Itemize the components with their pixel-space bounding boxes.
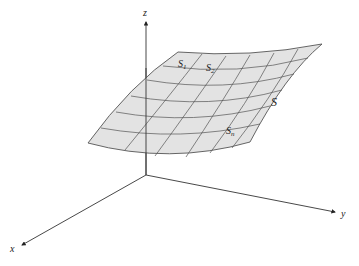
z-axis-label: z [142, 7, 147, 18]
surface-s [88, 44, 322, 175]
y-axis [146, 175, 335, 212]
y-axis-label: y [340, 208, 346, 219]
surface-diagram: z y x S S1 S2 Sn [0, 0, 359, 266]
x-axis [22, 175, 146, 245]
surface-label: S [271, 95, 277, 109]
x-axis-label: x [9, 243, 15, 254]
surface-fill [88, 44, 322, 154]
